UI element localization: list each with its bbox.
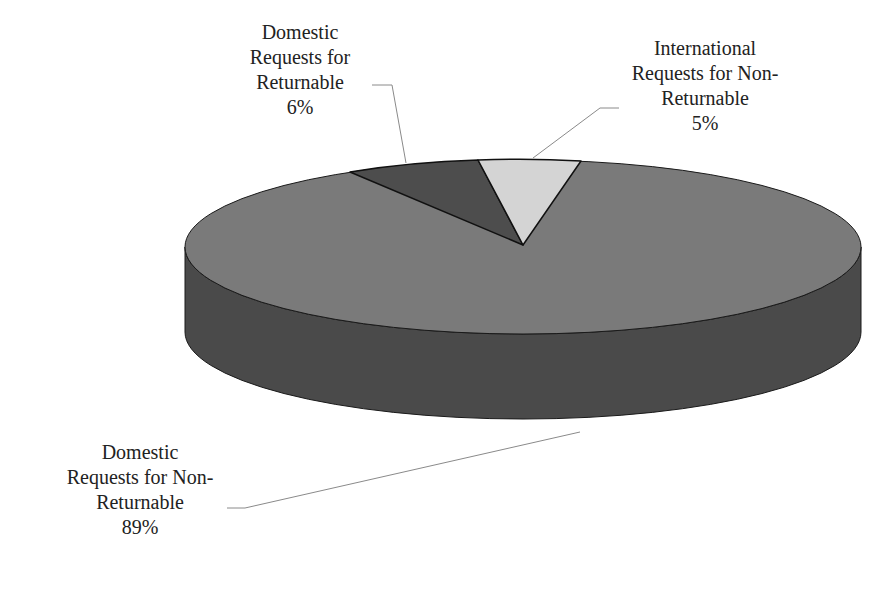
label-line: Domestic bbox=[240, 20, 360, 45]
label-domestic-nonreturnable: Domestic Requests for Non- Returnable 89… bbox=[55, 440, 225, 540]
label-line: Returnable bbox=[55, 490, 225, 515]
leader-line-domestic-returnable bbox=[372, 85, 406, 163]
label-domestic-returnable: Domestic Requests for Returnable 6% bbox=[240, 20, 360, 120]
leader-line-international-nonreturnable bbox=[533, 108, 619, 158]
leader-line-domestic-nonreturnable bbox=[227, 432, 580, 508]
label-percent: 89% bbox=[55, 515, 225, 540]
label-line: International bbox=[610, 36, 800, 61]
label-line: Returnable bbox=[240, 70, 360, 95]
label-line: Domestic bbox=[55, 440, 225, 465]
label-percent: 6% bbox=[240, 95, 360, 120]
label-international-nonreturnable: International Requests for Non- Returnab… bbox=[610, 36, 800, 136]
label-line: Requests for bbox=[240, 45, 360, 70]
label-line: Returnable bbox=[610, 86, 800, 111]
label-percent: 5% bbox=[610, 111, 800, 136]
label-line: Requests for Non- bbox=[610, 61, 800, 86]
label-line: Requests for Non- bbox=[55, 465, 225, 490]
